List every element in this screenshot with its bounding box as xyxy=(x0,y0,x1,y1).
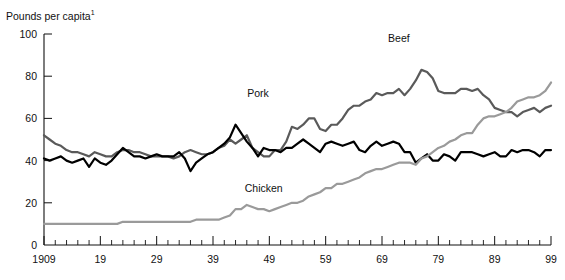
series-label-beef: Beef xyxy=(388,32,410,44)
x-tick-label: 39 xyxy=(207,253,219,265)
y-tick-label: 20 xyxy=(25,197,37,209)
y-tick-label: 80 xyxy=(25,70,37,82)
x-tick-label: 89 xyxy=(489,253,501,265)
x-tick-label: 19 xyxy=(94,253,106,265)
data-series-group xyxy=(44,70,551,224)
y-tick-label: 40 xyxy=(25,155,37,167)
y-axis-ticks: 020406080100 xyxy=(19,28,52,251)
x-axis-ticks: 1909192939495969798999 xyxy=(32,236,557,265)
x-tick-label: 99 xyxy=(545,253,557,265)
x-tick-label: 1909 xyxy=(32,253,56,265)
series-label-pork: Pork xyxy=(247,87,269,99)
x-tick-label: 79 xyxy=(432,253,444,265)
x-tick-label: 59 xyxy=(320,253,332,265)
y-tick-label: 60 xyxy=(25,112,37,124)
series-label-chicken: Chicken xyxy=(245,182,283,194)
meat-consumption-line-chart: Pounds per capita1 020406080100 19091929… xyxy=(0,0,565,280)
y-tick-label: 100 xyxy=(19,28,37,40)
x-tick-label: 49 xyxy=(263,253,275,265)
series-line-pork xyxy=(44,125,551,171)
chart-plot-area: 020406080100 1909192939495969798999 Beef… xyxy=(0,0,565,280)
series-annotations: BeefPorkChicken xyxy=(245,32,410,194)
y-tick-label: 0 xyxy=(31,239,37,251)
x-tick-label: 29 xyxy=(151,253,163,265)
x-tick-label: 69 xyxy=(376,253,388,265)
series-line-beef xyxy=(44,70,551,159)
